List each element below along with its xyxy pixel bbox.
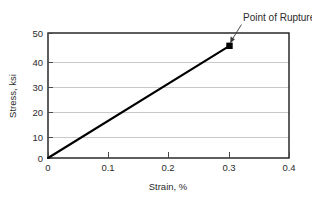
rupture-annotation-label: Point of Rupture [243,12,312,23]
x-tick-label-0.1: 0.1 [101,162,114,173]
y-tick-label-0: 0 [38,153,43,164]
y-tick-label-20: 20 [32,107,43,118]
x-tick-labels: 0 0.1 0.2 0.3 0.4 [45,162,295,173]
chart-canvas: 50 40 30 20 10 0 0 0.1 0.2 0.3 0.4 Stres… [0,0,312,198]
x-axis-title: Strain, % [149,181,188,192]
y-tick-label-30: 30 [32,82,43,93]
y-tick-label-40: 40 [32,57,43,68]
x-tick-label-0.4: 0.4 [282,162,295,173]
stress-strain-chart-figure: 50 40 30 20 10 0 0 0.1 0.2 0.3 0.4 Stres… [0,0,312,198]
y-tick-label-50: 50 [32,28,43,39]
y-tick-labels: 50 40 30 20 10 0 [32,28,43,164]
x-tick-label-0.2: 0.2 [161,162,174,173]
x-tick-label-0: 0 [45,162,50,173]
x-tick-label-0.3: 0.3 [222,162,235,173]
rupture-point-marker [226,43,232,49]
y-tick-label-10: 10 [32,132,43,143]
plot-area-background [48,33,289,158]
y-axis-title: Stress, ksi [7,74,18,118]
